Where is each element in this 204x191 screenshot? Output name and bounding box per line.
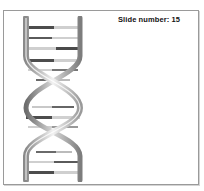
- dna-strand-back: [26, 18, 80, 180]
- dna-strand-front: [26, 18, 80, 180]
- base-pairs: [26, 26, 80, 174]
- slide-number-label: Slide number: 15: [118, 15, 180, 24]
- dna-double-helix-icon: [18, 16, 88, 182]
